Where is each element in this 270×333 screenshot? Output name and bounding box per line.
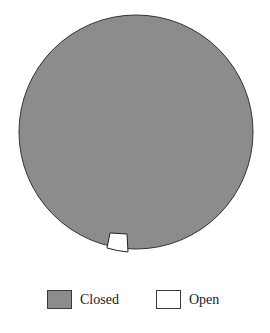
legend-item-open: Open bbox=[156, 290, 219, 309]
slice-open bbox=[107, 233, 128, 252]
legend-item-closed: Closed bbox=[47, 290, 119, 309]
legend-label-closed: Closed bbox=[80, 292, 119, 308]
legend-swatch-open bbox=[156, 290, 181, 309]
pie-chart bbox=[0, 0, 270, 280]
slice-closed bbox=[19, 15, 253, 249]
legend: Closed Open bbox=[0, 290, 270, 312]
legend-label-open: Open bbox=[189, 292, 219, 308]
legend-swatch-closed bbox=[47, 290, 72, 309]
